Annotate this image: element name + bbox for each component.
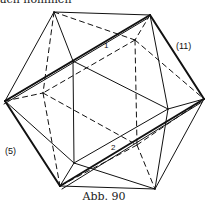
icosahedron-figure bbox=[0, 0, 208, 204]
figure-caption: Abb. 90 bbox=[0, 190, 208, 203]
angle-label-2: 2 bbox=[111, 143, 115, 152]
hidden-edges bbox=[5, 12, 204, 189]
angle-label-1: 1 bbox=[104, 41, 108, 50]
edge-label-11: (11) bbox=[176, 41, 191, 51]
edge-label-5: (5) bbox=[5, 146, 16, 156]
